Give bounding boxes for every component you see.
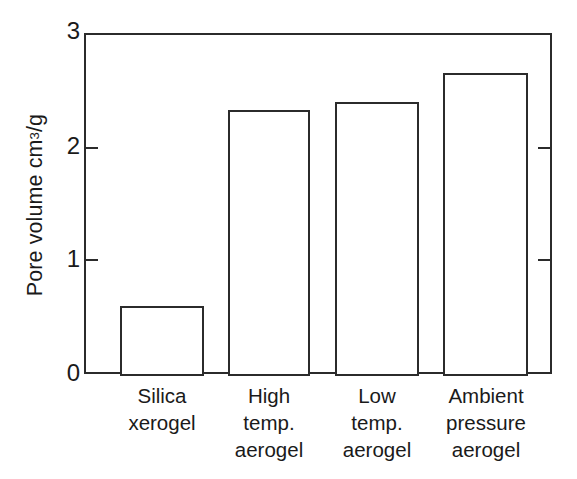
y-axis-right-tick-2 (538, 147, 552, 149)
y-axis-tick-1 (84, 259, 98, 261)
x-label-line: temp. (207, 409, 331, 436)
x-label-line: Silica (100, 382, 224, 409)
x-label-line: aerogel (315, 436, 439, 463)
x-label-high-temp-aerogel: High temp. aerogel (207, 382, 331, 463)
x-label-line: High (207, 382, 331, 409)
y-axis-right-tick-1 (538, 259, 552, 261)
y-axis-title-suffix: /g (23, 114, 48, 132)
x-label-line: aerogel (423, 436, 549, 463)
x-label-low-temp-aerogel: Low temp. aerogel (315, 382, 439, 463)
x-label-line: temp. (315, 409, 439, 436)
bar-silica-xerogel (120, 306, 204, 376)
x-label-silica-xerogel: Silica xerogel (100, 382, 224, 436)
y-axis-title: Pore volume cm3/g (18, 35, 52, 375)
x-axis-labels: Silica xerogel High temp. aerogel Low te… (0, 382, 577, 477)
bar-ambient-pressure-aerogel (443, 73, 528, 376)
x-label-line: Ambient (423, 382, 549, 409)
x-label-line: aerogel (207, 436, 331, 463)
y-tick-label-2: 2 (24, 134, 80, 158)
x-label-line: pressure (423, 409, 549, 436)
bar-high-temp-aerogel (228, 110, 310, 376)
y-axis-title-prefix: Pore volume cm (23, 139, 48, 296)
bar-low-temp-aerogel (335, 102, 419, 376)
x-label-ambient-pressure-aerogel: Ambient pressure aerogel (423, 382, 549, 463)
y-tick-label-1: 1 (24, 247, 80, 271)
y-tick-label-3: 3 (24, 19, 80, 43)
x-label-line: Low (315, 382, 439, 409)
y-axis-tick-2 (84, 147, 98, 149)
bar-chart-figure: Pore volume cm3/g 3 2 1 0 Silica xerogel… (0, 0, 577, 479)
x-label-line: xerogel (100, 409, 224, 436)
